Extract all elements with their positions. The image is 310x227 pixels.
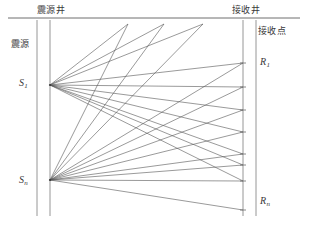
source-label: 震源: [11, 40, 30, 49]
source-s1-subscript: 1: [24, 82, 28, 90]
ray-s1-up1: [50, 24, 128, 85]
ray-sn-rn: [50, 180, 243, 210]
ray-s1-r3: [50, 85, 243, 110]
ray-sn-r7: [50, 180, 243, 181]
ray-s1-up2: [50, 24, 164, 85]
ray-sn-r3: [50, 110, 243, 180]
ray-s1-up3: [50, 24, 203, 85]
ray-sn-r2: [50, 87, 243, 180]
source-s1-label: S1: [19, 78, 28, 90]
figure-root: 震源井 接收井 震源 接收点 S1 Sn R1 Rn: [0, 0, 310, 227]
source-well-label: 震源井: [37, 6, 65, 15]
receiver-r1-label: R1: [260, 57, 270, 69]
source-point-s1: [49, 84, 51, 86]
source-point-sn: [49, 179, 51, 181]
ray-s1-r2: [50, 85, 243, 87]
ray-sn-up2: [50, 24, 164, 180]
receiver-rn-label: Rn: [260, 196, 270, 208]
receiver-well-label: 接收井: [232, 6, 260, 15]
receiver-point-label: 接收点: [258, 27, 286, 36]
ray-s1-r5: [50, 85, 243, 154]
rays-from-sn-group: [50, 24, 243, 210]
receiver-rn-subscript: n: [266, 200, 270, 208]
source-sn-subscript: n: [24, 179, 28, 187]
ray-s1-r7: [50, 85, 243, 181]
receiver-r1-subscript: 1: [266, 61, 270, 69]
source-sn-label: Sn: [19, 175, 28, 187]
